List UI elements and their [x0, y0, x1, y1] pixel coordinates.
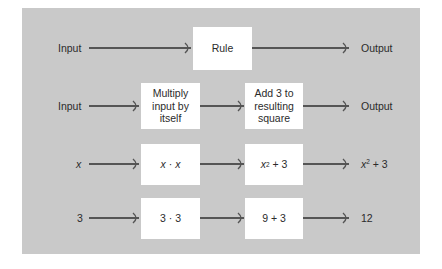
arrow-icon	[89, 159, 140, 169]
nine-plus-three-box: 9 + 3	[245, 198, 303, 239]
multiply-line1: Multiply	[153, 87, 189, 100]
multiply-step-box: Multiply input by itself	[141, 83, 200, 129]
rule-label: Rule	[212, 42, 234, 55]
row4-output-label: 12	[361, 212, 373, 224]
three-times-three-box: 3 · 3	[141, 198, 200, 239]
row3-input-label: x	[76, 158, 81, 170]
add-step-box: Add 3 to resulting square	[245, 83, 303, 129]
arrow-icon	[89, 101, 140, 111]
x-squared-plus-3-box: x2 + 3	[245, 144, 303, 185]
nine-plus-three-label: 9 + 3	[262, 212, 286, 225]
add-line2: resulting	[254, 100, 294, 113]
three-times-three-label: 3 · 3	[160, 212, 181, 225]
row1-input-label: Input	[58, 42, 81, 54]
x-b: x	[175, 158, 180, 171]
multiply-line3: itself	[160, 112, 182, 125]
arrow-icon	[303, 159, 350, 169]
add-line3: square	[258, 112, 290, 125]
arrow-icon	[303, 213, 350, 223]
arrow-icon	[200, 213, 245, 223]
add-line1: Add 3 to	[254, 87, 293, 100]
arrow-icon	[200, 159, 245, 169]
row2-input-label: Input	[58, 100, 81, 112]
row3-output-label: x2 + 3	[361, 158, 388, 170]
out-plus-3: + 3	[370, 158, 388, 170]
arrow-icon	[89, 43, 192, 53]
row2-output-label: Output	[361, 100, 393, 112]
x-times-x-box: x · x	[141, 144, 200, 185]
arrow-icon	[303, 101, 350, 111]
row4-input-label: 3	[77, 212, 83, 224]
rule-box: Rule	[193, 27, 252, 70]
plus-3: + 3	[270, 158, 288, 171]
arrow-icon	[89, 213, 140, 223]
arrow-icon	[252, 43, 350, 53]
multiply-line2: input by	[152, 100, 189, 113]
row1-output-label: Output	[361, 42, 393, 54]
dot-op: ·	[166, 158, 175, 171]
arrow-icon	[200, 101, 245, 111]
